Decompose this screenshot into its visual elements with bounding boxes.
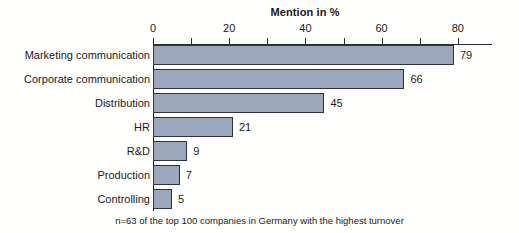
x-tick-label: 40 [299, 22, 311, 34]
bar-row: Controlling5 [0, 189, 519, 209]
bar-row: R&D9 [0, 141, 519, 161]
bar-value-label: 7 [186, 169, 192, 181]
bar [153, 141, 187, 161]
x-tick-label: 80 [452, 22, 464, 34]
bar [153, 45, 454, 65]
bar-row: Marketing communication79 [0, 45, 519, 65]
category-label: Controlling [97, 193, 150, 205]
bar [153, 117, 233, 137]
plot-area: Marketing communication79Corporate commu… [0, 45, 519, 213]
bar [153, 189, 172, 209]
bar-value-label: 66 [410, 73, 422, 85]
x-tick-label: 60 [375, 22, 387, 34]
bar-value-label: 45 [330, 97, 342, 109]
bar-row: Production7 [0, 165, 519, 185]
category-label: R&D [127, 145, 150, 157]
bar-value-label: 5 [178, 193, 184, 205]
bar [153, 165, 180, 185]
category-label: Production [97, 169, 150, 181]
bar [153, 69, 404, 89]
bar-value-label: 9 [193, 145, 199, 157]
category-label: HR [134, 121, 150, 133]
bar-chart: Mention in % 020406080 Marketing communi… [0, 0, 519, 233]
bar-value-label: 79 [460, 49, 472, 61]
category-label: Marketing communication [25, 49, 150, 61]
x-axis-tick-labels: 020406080 [0, 22, 519, 36]
x-tick-label: 20 [223, 22, 235, 34]
category-label: Corporate communication [24, 73, 150, 85]
chart-title: Mention in % [153, 6, 457, 18]
bar [153, 93, 324, 113]
bar-value-label: 21 [239, 121, 251, 133]
bar-row: HR21 [0, 117, 519, 137]
chart-footnote: n=63 of the top 100 companies in Germany… [0, 215, 519, 226]
category-label: Distribution [95, 97, 150, 109]
x-tick-label: 0 [150, 22, 156, 34]
bar-row: Distribution45 [0, 93, 519, 113]
bar-row: Corporate communication66 [0, 69, 519, 89]
